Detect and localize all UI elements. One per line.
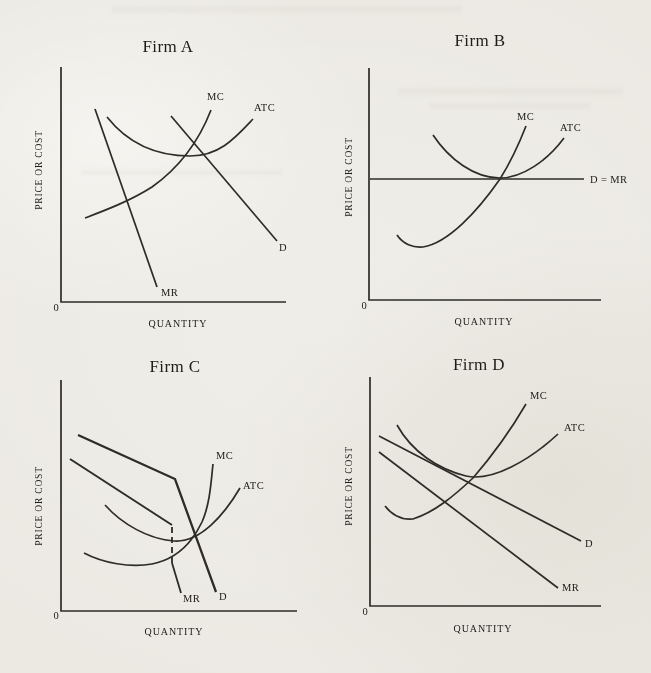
demand-label: D (219, 591, 227, 602)
atc-label: ATC (560, 122, 581, 133)
y-axis-label: PRICE OR COST (34, 130, 44, 210)
axes (61, 380, 297, 611)
panel-title: Firm D (453, 355, 505, 374)
panel-firm-c: Firm C PRICE OR COST QUANTITY 0 D MR ATC… (34, 357, 297, 637)
atc-curve (105, 488, 240, 541)
y-axis-label: PRICE OR COST (34, 466, 44, 546)
axes (61, 67, 286, 302)
mc-label: MC (207, 91, 224, 102)
demand-label: D (279, 242, 287, 253)
atc-label: ATC (254, 102, 275, 113)
mc-label: MC (216, 450, 233, 461)
demand-mr-label: D = MR (590, 174, 628, 185)
scanned-textbook-page: Firm A PRICE OR COST QUANTITY 0 MC ATC D… (0, 0, 651, 673)
mc-curve (85, 110, 211, 218)
kinked-demand-curve (78, 435, 216, 592)
axes (369, 68, 601, 300)
mr-lower-segment (172, 563, 181, 593)
mr-upper-segment (70, 459, 172, 525)
origin-label: 0 (53, 302, 58, 313)
atc-curve (107, 117, 253, 156)
atc-curve (433, 135, 564, 178)
x-axis-label: QUANTITY (455, 316, 514, 327)
bleed-through-line (82, 170, 282, 175)
demand-label: D (585, 538, 593, 549)
panel-title: Firm A (142, 37, 193, 56)
mc-curve (84, 464, 213, 565)
y-axis-label: PRICE OR COST (344, 137, 354, 217)
panel-title: Firm B (454, 31, 505, 50)
x-axis-label: QUANTITY (145, 626, 204, 637)
bleed-through-line (398, 88, 623, 95)
bleed-through-line (430, 103, 590, 109)
four-firm-diagrams-figure: Firm A PRICE OR COST QUANTITY 0 MC ATC D… (0, 0, 651, 673)
panel-firm-a: Firm A PRICE OR COST QUANTITY 0 MC ATC D… (34, 37, 287, 329)
mr-label: MR (183, 593, 200, 604)
mr-label: MR (562, 582, 579, 593)
mc-label: MC (517, 111, 534, 122)
origin-label: 0 (53, 610, 58, 621)
origin-label: 0 (362, 606, 367, 617)
mr-curve (379, 452, 558, 588)
bleed-through-line (112, 6, 462, 13)
demand-curve (379, 436, 581, 541)
mc-label: MC (530, 390, 547, 401)
mc-curve (397, 126, 526, 247)
y-axis-label: PRICE OR COST (344, 446, 354, 526)
atc-curve (397, 425, 558, 477)
panel-firm-d: Firm D PRICE OR COST QUANTITY 0 ATC MC D… (344, 355, 601, 634)
atc-label: ATC (564, 422, 585, 433)
atc-label: ATC (243, 480, 264, 491)
x-axis-label: QUANTITY (149, 318, 208, 329)
origin-label: 0 (361, 300, 366, 311)
x-axis-label: QUANTITY (454, 623, 513, 634)
mr-label: MR (161, 287, 178, 298)
demand-curve (171, 116, 277, 241)
panel-firm-b: Firm B PRICE OR COST QUANTITY 0 D = MR A… (344, 31, 628, 327)
panel-title: Firm C (149, 357, 200, 376)
